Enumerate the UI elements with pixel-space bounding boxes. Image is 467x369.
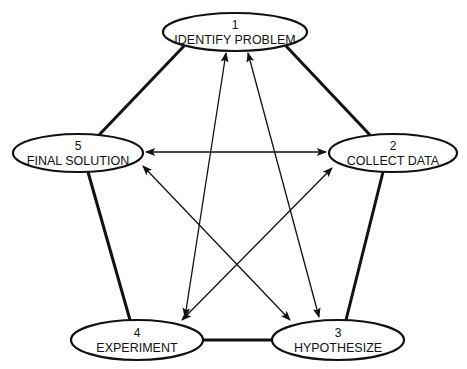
edge-4-5 xyxy=(88,172,130,320)
node-experiment: 4EXPERIMENT xyxy=(71,320,203,360)
node-number: 1 xyxy=(232,18,239,32)
nodes: 1IDENTIFY PROBLEM2COLLECT DATA3HYPOTHESI… xyxy=(13,13,457,360)
node-number: 5 xyxy=(75,139,82,153)
node-final-solution: 5FINAL SOLUTION xyxy=(13,134,143,172)
node-label: COLLECT DATA xyxy=(347,154,440,168)
arrow-1-4 xyxy=(185,53,226,317)
arrow-edges xyxy=(143,53,332,320)
edge-5-1 xyxy=(99,46,184,135)
edge-1-2 xyxy=(286,46,370,135)
node-number: 4 xyxy=(134,326,141,340)
node-label: HYPOTHESIZE xyxy=(294,341,382,355)
node-label: FINAL SOLUTION xyxy=(27,154,129,168)
node-collect-data: 2COLLECT DATA xyxy=(329,134,457,172)
node-number: 2 xyxy=(390,139,397,153)
node-label: IDENTIFY PROBLEM xyxy=(174,33,295,47)
pentagon-edges xyxy=(88,46,383,340)
edge-2-3 xyxy=(346,172,383,320)
node-hypothesize: 3HYPOTHESIZE xyxy=(272,320,404,360)
node-label: EXPERIMENT xyxy=(96,341,178,355)
node-identify-problem: 1IDENTIFY PROBLEM xyxy=(163,13,307,51)
arrow-1-3 xyxy=(248,53,319,317)
arrow-5-3 xyxy=(143,166,290,320)
node-number: 3 xyxy=(335,326,342,340)
process-diagram: 1IDENTIFY PROBLEM2COLLECT DATA3HYPOTHESI… xyxy=(0,0,467,369)
